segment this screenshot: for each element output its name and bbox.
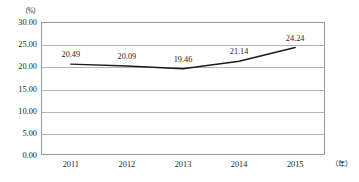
x-axis-tick-label: 2015 <box>287 160 304 170</box>
y-axis-tick-label: 20.00 <box>0 62 37 71</box>
data-point-label: 24.24 <box>286 34 305 43</box>
series-line-group <box>41 22 325 155</box>
y-axis-tick-label: 30.00 <box>0 18 37 27</box>
x-axis-tick-label: 2014 <box>231 160 248 170</box>
y-axis-tick-label: 15.00 <box>0 84 37 93</box>
x-axis-tick-label: 2013 <box>175 160 192 170</box>
x-axis-tick-label: 2011 <box>63 160 79 170</box>
y-axis-tick-label: 5.00 <box>0 128 37 137</box>
y-axis-tick-label: 0.00 <box>0 151 37 160</box>
line-chart: （%） 30.0025.0020.0015.0010.005.000.00 20… <box>0 0 359 182</box>
x-axis-unit-label: （年） <box>331 159 352 169</box>
data-point-label: 20.49 <box>61 50 80 59</box>
data-point-label: 20.09 <box>118 52 137 61</box>
y-axis-tick-label: 25.00 <box>0 40 37 49</box>
data-point-label: 21.14 <box>230 47 249 56</box>
data-point-label: 19.46 <box>174 55 193 64</box>
y-axis-tick-label: 10.00 <box>0 106 37 115</box>
x-axis-tick-label: 2012 <box>119 160 136 170</box>
y-axis-unit-label: （%） <box>0 7 40 15</box>
